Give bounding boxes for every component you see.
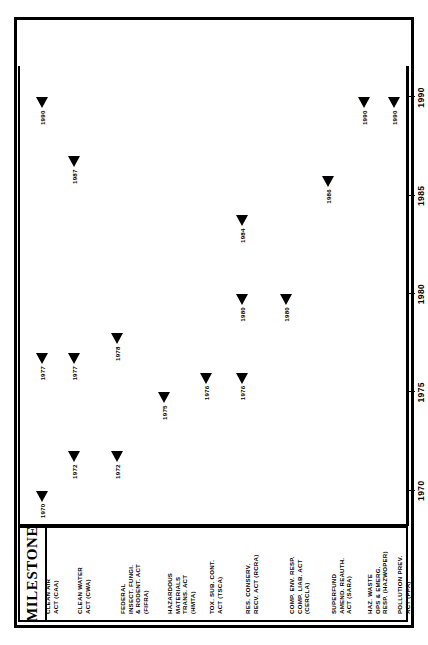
milestone-row-ppa: POLLUTION PREV. ACT (PPA): [396, 530, 411, 614]
data-marker: [322, 176, 334, 187]
data-marker-label: 1975: [161, 405, 168, 420]
data-marker-label: 1970: [39, 504, 46, 519]
plot-border-top: [18, 66, 20, 526]
data-marker: [388, 97, 400, 108]
data-marker: [280, 294, 292, 305]
data-marker-label: 1984: [239, 228, 246, 243]
milestone-row-cwa: CLEAN WATER ACT (CWA): [76, 530, 91, 614]
data-marker-label: 1987: [71, 169, 78, 184]
data-marker-label: 1990: [361, 110, 368, 125]
milestone-table-header: MILESTONE: [20, 528, 47, 620]
data-marker-label: 1977: [71, 366, 78, 381]
data-marker: [111, 451, 123, 462]
x-tick-label-1990: 1990: [416, 87, 426, 108]
data-marker: [36, 353, 48, 364]
data-marker: [236, 215, 248, 226]
x-tick-label-1970: 1970: [416, 480, 426, 501]
data-marker-label: 1990: [39, 110, 46, 125]
data-marker: [68, 353, 80, 364]
x-tick-1970: [408, 490, 415, 491]
milestone-row-rcra: RES. CONSERV. RECV. ACT (RCRA): [244, 530, 259, 614]
data-marker: [68, 156, 80, 167]
data-marker: [111, 333, 123, 344]
data-marker-label: 1976: [203, 386, 210, 401]
x-tick-label-1975: 1975: [416, 382, 426, 403]
data-marker-label: 1978: [114, 346, 121, 361]
data-marker: [200, 373, 212, 384]
milestone-row-tsca: TOX. SUB. CONT. ACT (TSCA): [208, 530, 223, 614]
data-marker: [236, 373, 248, 384]
data-marker: [236, 294, 248, 305]
milestone-timeline-chart: MILESTONE CLEAN AIR ACT (CAA)CLEAN WATER…: [14, 17, 414, 628]
x-axis-line: [408, 66, 409, 526]
milestone-table-body: CLEAN AIR ACT (CAA)CLEAN WATER ACT (CWA)…: [47, 528, 406, 620]
data-marker-label: 1980: [283, 307, 290, 322]
data-marker-label: 1977: [39, 366, 46, 381]
plot-border-left: [18, 524, 408, 526]
x-tick-1985: [408, 195, 415, 196]
data-marker: [36, 97, 48, 108]
milestone-row-hmta: HAZARDOUS MATERIALS TRANS. ACT (HMTA): [166, 530, 196, 614]
milestone-table: MILESTONE CLEAN AIR ACT (CAA)CLEAN WATER…: [18, 526, 408, 622]
data-marker: [68, 451, 80, 462]
data-marker-label: 1972: [114, 464, 121, 479]
milestone-row-caa: CLEAN AIR ACT (CAA): [44, 530, 59, 614]
data-marker: [158, 392, 170, 403]
data-marker: [36, 491, 48, 502]
x-tick-1990: [408, 96, 415, 97]
data-marker: [358, 97, 370, 108]
milestone-row-cercla: COMP. ENV. RESP. COMP. LIAB. ACT (CERCLA…: [288, 530, 311, 614]
milestone-row-fifra: FEDERAL INSECT. FUNGI. & RODENT. ACT (FI…: [119, 530, 149, 614]
data-marker-label: 1990: [391, 110, 398, 125]
x-tick-1975: [408, 391, 415, 392]
milestone-row-hazwoper: HAZ. WASTE OPS & EMERG. RESP. (HAZWOPER): [366, 530, 389, 614]
data-marker-label: 1972: [71, 464, 78, 479]
x-tick-label-1980: 1980: [416, 284, 426, 305]
data-marker-label: 1980: [239, 307, 246, 322]
data-marker-label: 1976: [239, 386, 246, 401]
rotated-chart-stage: MILESTONE CLEAN AIR ACT (CAA)CLEAN WATER…: [14, 17, 414, 628]
milestone-row-sara: SUPERFUND AMEND. REAUTH. ACT (SARA): [330, 530, 353, 614]
x-tick-label-1985: 1985: [416, 185, 426, 206]
data-marker-label: 1986: [325, 189, 332, 204]
x-tick-1980: [408, 293, 415, 294]
